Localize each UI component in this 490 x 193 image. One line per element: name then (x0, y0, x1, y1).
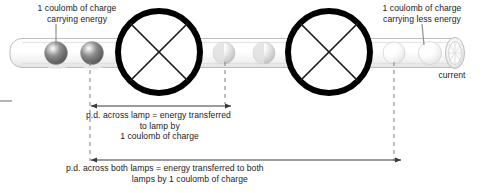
end-cap-spokes (447, 42, 463, 65)
label-pd-across-lamp: p.d. across lamp = energy transferred to… (86, 110, 358, 142)
charge-4 (253, 42, 275, 64)
charge-5 (383, 42, 405, 64)
label-current: current (424, 70, 480, 81)
label-charge-carrying-energy: 1 coulomb of charge carrying energy (12, 3, 142, 24)
label-pd-across-both-lamps: p.d. across both lamps = energy transfer… (66, 163, 406, 184)
label-charge-carrying-less-energy: 1 coulomb of charge carrying less energy (356, 3, 488, 24)
charge-6 (419, 42, 442, 65)
physics-diagram: 1 coulomb of charge carrying energy 1 co… (0, 0, 490, 193)
charge-3 (213, 42, 235, 64)
wire-open-end-cap (446, 38, 465, 69)
